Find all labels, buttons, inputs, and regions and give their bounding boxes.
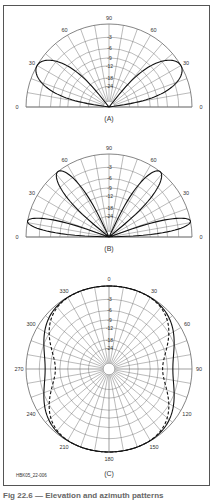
grid-spoke	[56, 373, 106, 432]
angle-label: 0	[15, 234, 18, 240]
grid-spoke	[31, 371, 104, 397]
angle-label: 30	[151, 288, 157, 294]
radial-label: -24	[106, 83, 113, 89]
grid-spoke	[112, 35, 151, 102]
grid-spoke	[113, 173, 163, 232]
grid-spoke	[37, 328, 104, 367]
angle-label: 60	[150, 27, 156, 33]
angle-label: 210	[59, 444, 68, 450]
grid-spoke	[114, 371, 187, 397]
grid-spoke	[27, 370, 103, 383]
radial-label: -18	[106, 205, 113, 211]
angle-label: 300	[26, 321, 35, 327]
grid-spoke	[111, 159, 137, 232]
panel-label: (A)	[104, 115, 113, 123]
chart-c: 0306090120150180210240270300330-3-6-9-12…	[14, 276, 202, 478]
grid-spoke	[81, 374, 107, 447]
radial-label: -3	[107, 296, 112, 302]
figure-caption: Fig 22.6 — Elevation and azimuth pattern…	[3, 491, 163, 500]
angle-label: 0	[15, 104, 18, 110]
angle-label: 30	[183, 60, 189, 66]
angle-label: 60	[61, 27, 67, 33]
grid-spoke	[56, 305, 106, 364]
grid-spoke	[81, 159, 107, 232]
polar-plots: 030609060300-3-6-9-12-18-24(A)0306090603…	[0, 0, 214, 500]
grid-spoke	[68, 35, 107, 102]
grid-spoke	[27, 355, 103, 368]
grid-spoke	[37, 66, 104, 105]
grid-spoke	[110, 375, 123, 451]
panel-label: (B)	[104, 245, 113, 253]
grid-spoke	[114, 328, 181, 367]
angle-label: 90	[106, 145, 112, 151]
grid-spoke	[111, 374, 137, 447]
angle-label: 150	[149, 444, 158, 450]
angle-label: 30	[29, 190, 35, 196]
radial-label: -9	[107, 55, 112, 61]
panel-label: (C)	[104, 470, 114, 478]
angle-label: 90	[196, 366, 202, 372]
grid-spoke	[112, 165, 151, 232]
angle-label: 330	[59, 288, 68, 294]
angle-label: 120	[182, 411, 191, 417]
radial-label: -6	[107, 175, 112, 181]
grid-spoke	[114, 66, 181, 105]
grid-spoke	[31, 341, 104, 367]
grid-spoke	[68, 297, 107, 364]
angle-label: 0	[199, 104, 202, 110]
radial-label: -6	[107, 45, 112, 51]
grid-spoke	[115, 370, 191, 383]
radial-label: -18	[106, 337, 113, 343]
grid-spoke	[95, 375, 108, 451]
angle-label: 60	[184, 321, 190, 327]
grid-spoke	[111, 291, 137, 364]
grid-spoke	[112, 297, 151, 364]
angle-label: 60	[61, 157, 67, 163]
figure-id-label: HBK05_22-006	[16, 473, 47, 478]
angle-label: 60	[150, 157, 156, 163]
angle-label: 90	[106, 15, 112, 21]
radial-label: -12	[106, 325, 113, 331]
grid-spoke	[112, 374, 151, 441]
radial-label: -6	[107, 307, 112, 313]
angle-label: 30	[29, 60, 35, 66]
grid-spoke	[111, 29, 137, 102]
radial-label: -24	[106, 213, 113, 219]
radial-label: -3	[107, 34, 112, 40]
radial-label: -3	[107, 164, 112, 170]
radial-label: -18	[106, 75, 113, 81]
radial-label: -9	[107, 317, 112, 323]
grid-spoke	[114, 341, 187, 367]
chart-b: 030609060300-3-6-9-12-18-24(B)	[15, 145, 202, 253]
grid-spoke	[115, 355, 191, 368]
angle-label: 180	[104, 456, 113, 462]
angle-label: 0	[199, 234, 202, 240]
angle-label: 0	[107, 276, 110, 282]
grid-spoke	[68, 165, 107, 232]
grid-spoke	[113, 373, 172, 423]
grid-spoke	[37, 372, 104, 411]
radial-label: -9	[107, 185, 112, 191]
radial-label: -24	[106, 345, 113, 351]
grid-spoke	[81, 29, 107, 102]
angle-label: 270	[14, 366, 23, 372]
angle-label: 30	[183, 190, 189, 196]
grid-spoke	[113, 373, 163, 432]
chart-a: 030609060300-3-6-9-12-18-24(A)	[15, 15, 202, 123]
grid-spoke	[45, 373, 104, 423]
grid-spoke	[114, 372, 181, 411]
grid-ring	[103, 363, 115, 375]
grid-spoke	[81, 291, 107, 364]
grid-spoke	[56, 173, 106, 232]
radial-label: -12	[106, 193, 113, 199]
angle-label: 240	[26, 411, 35, 417]
grid-spoke	[68, 374, 107, 441]
grid-spoke	[113, 305, 163, 364]
radial-label: -12	[106, 63, 113, 69]
